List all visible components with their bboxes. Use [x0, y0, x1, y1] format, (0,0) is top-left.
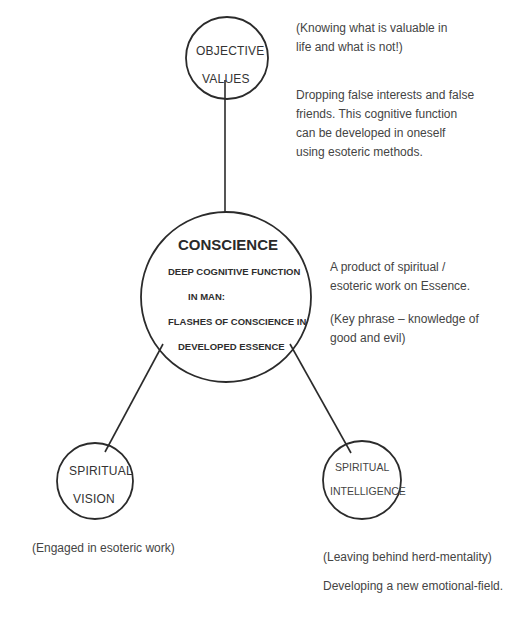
objective-values-note2-line3: can be developed in oneself	[296, 124, 445, 143]
conscience-note2-line2: good and evil)	[330, 329, 405, 348]
spiritual-intelligence-note2: Developing a new emotional-field.	[323, 577, 503, 596]
conscience-note1-line2: esoteric work on Essence.	[330, 277, 470, 296]
conscience-note1-line1: A product of spiritual /	[330, 258, 445, 277]
spiritual-vision-label-line1: SPIRITUAL	[69, 464, 133, 478]
spiritual-intelligence-label-line1: SPIRITUAL	[335, 461, 389, 473]
conscience-label-line2: IN MAN:	[188, 291, 225, 302]
conscience-note2-line1: (Key phrase – knowledge of	[330, 310, 479, 329]
objective-values-note1-line1: (Knowing what is valuable in	[296, 19, 447, 38]
objective-values-note2-line2: friends. This cognitive function	[296, 105, 457, 124]
node-circle-spiritual-intelligence	[323, 441, 401, 519]
connector-conscience-to-intelligence	[290, 344, 351, 453]
conscience-label-line4: DEVELOPED ESSENCE	[178, 341, 285, 352]
conscience-title: CONSCIENCE	[178, 236, 278, 253]
objective-values-label-line1: OBJECTIVE	[196, 44, 264, 58]
spiritual-intelligence-label-line2: INTELLIGENCE	[330, 485, 406, 497]
spiritual-vision-note: (Engaged in esoteric work)	[32, 539, 175, 558]
objective-values-note1-line2: life and what is not!)	[296, 38, 403, 57]
spiritual-vision-label-line2: VISION	[73, 492, 115, 506]
objective-values-note2-line1: Dropping false interests and false	[296, 86, 474, 105]
conscience-label-line3: FLASHES OF CONSCIENCE IN	[168, 316, 306, 327]
conscience-label-line1: DEEP COGNITIVE FUNCTION	[168, 266, 300, 277]
objective-values-note2-line4: using esoteric methods.	[296, 143, 423, 162]
node-circle-spiritual-vision	[57, 443, 133, 519]
node-circle-objective-values	[186, 17, 268, 99]
spiritual-intelligence-note1: (Leaving behind herd-mentality)	[323, 548, 492, 567]
connector-conscience-to-vision	[105, 344, 163, 452]
objective-values-label-line2: VALUES	[202, 72, 250, 86]
